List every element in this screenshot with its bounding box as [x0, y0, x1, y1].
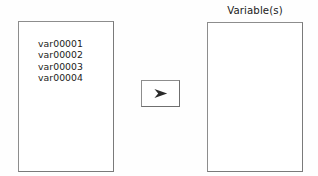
right-arrow-icon — [154, 88, 168, 99]
list-item[interactable]: var00002 — [38, 49, 112, 60]
target-variable-listbox[interactable] — [207, 22, 303, 172]
variable-selection-dialog: var00001 var00002 var00003 var00004 Vari… — [0, 0, 318, 176]
list-item[interactable]: var00001 — [38, 38, 112, 49]
source-variable-list[interactable]: var00001 var00002 var00003 var00004 — [38, 38, 112, 83]
list-item[interactable]: var00004 — [38, 72, 112, 83]
list-item[interactable]: var00003 — [38, 61, 112, 72]
move-variable-button[interactable] — [141, 80, 180, 107]
target-list-label: Variable(s) — [207, 4, 303, 17]
source-variable-listbox[interactable]: var00001 var00002 var00003 var00004 — [18, 21, 114, 172]
